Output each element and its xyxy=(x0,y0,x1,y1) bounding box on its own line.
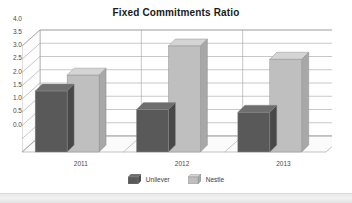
y-axis-tick-4-0: 4.0 xyxy=(0,15,22,22)
y-axis-tick-2-5: 2.5 xyxy=(0,54,22,61)
chart-screenshot: Fixed Commitments Ratio 4.03.53.02.52.01… xyxy=(0,0,352,203)
page-bottom-strip xyxy=(0,194,352,203)
x-axis-label-2011: 2011 xyxy=(30,160,131,167)
y-axis-tick-0-0: 0.0 xyxy=(0,121,22,128)
bar-chart-graphic xyxy=(22,28,332,156)
plot-area xyxy=(22,28,332,156)
legend-swatch-nestle-icon xyxy=(188,174,201,184)
x-axis-label-2013: 2013 xyxy=(233,160,334,167)
y-axis-tick-labels: 4.03.53.02.52.01.51.00.50.0 xyxy=(0,0,22,128)
chart-title: Fixed Commitments Ratio xyxy=(0,7,352,18)
y-axis-tick-2-0: 2.0 xyxy=(0,68,22,75)
chart-container: Fixed Commitments Ratio 4.03.53.02.52.01… xyxy=(0,0,352,194)
y-axis-tick-1-0: 1.0 xyxy=(0,94,22,101)
y-axis-tick-1-5: 1.5 xyxy=(0,81,22,88)
y-axis-tick-3-0: 3.0 xyxy=(0,41,22,48)
y-axis-tick-0-5: 0.5 xyxy=(0,107,22,114)
legend-label-unilever: Unilever xyxy=(146,176,170,183)
legend-item-unilever[interactable]: Unilever xyxy=(128,174,170,184)
legend-item-nestle[interactable]: Nestle xyxy=(188,174,224,184)
legend-label-nestle: Nestle xyxy=(206,176,224,183)
legend-swatch-unilever-icon xyxy=(128,174,141,184)
x-axis-label-2012: 2012 xyxy=(131,160,232,167)
y-axis-tick-3-5: 3.5 xyxy=(0,28,22,35)
chart-legend: UnileverNestle xyxy=(0,171,352,187)
